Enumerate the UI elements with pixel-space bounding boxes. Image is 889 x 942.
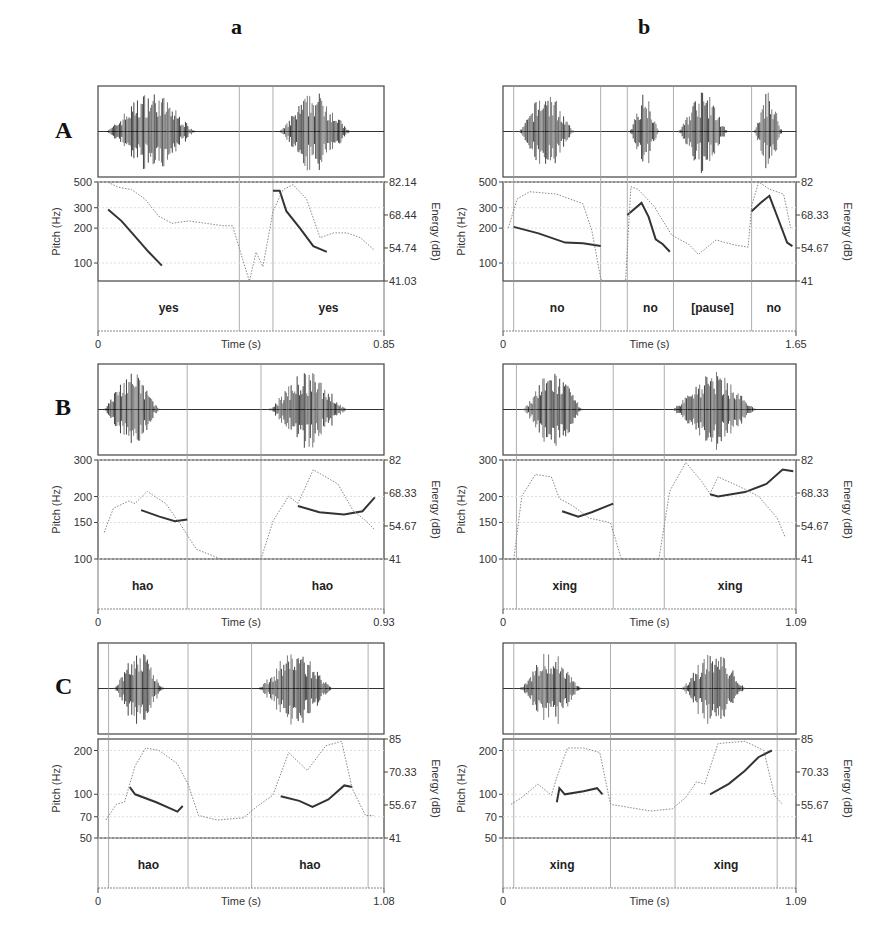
pitch-tick-label: 200 [74,491,92,503]
pitch-frame [98,182,384,281]
word-label: xing [552,579,577,593]
energy-tick-label: 85 [801,733,813,745]
pitch-contour [298,497,375,514]
energy-tick-label: 54.67 [801,520,829,532]
pitch-axis-title: Pitch (Hz) [455,764,467,812]
pitch-axis-title: Pitch (Hz) [50,207,62,255]
energy-tick-label: 68.44 [389,209,417,221]
energy-tick-label: 82 [389,454,401,466]
energy-tick-label: 41 [801,553,813,565]
energy-contour [106,741,374,820]
pitch-tick-label: 100 [74,553,92,565]
word-label: hao [312,579,333,593]
pitch-frame [98,460,384,559]
energy-tick-label: 41 [389,553,401,565]
time-tick-end: 0.85 [373,338,394,350]
energy-tick-label: 54.67 [801,242,829,254]
pitch-tick-label: 100 [74,257,92,269]
time-tick-start: 0 [95,895,101,907]
word-label: no [550,301,565,315]
panel-A-a: 50030020010082.1468.4454.7441.03Pitch (H… [50,86,442,350]
pitch-tick-label: 300 [479,454,497,466]
pitch-contour [281,785,353,806]
panel-A-b: 5003002001008268.3354.6741Pitch (Hz)Ener… [455,86,854,350]
time-axis-title: Time (s) [221,895,261,907]
pitch-contour [710,751,772,795]
energy-tick-label: 68.33 [389,487,417,499]
pitch-tick-label: 300 [74,454,92,466]
pitch-contour [627,203,670,252]
energy-contour [514,462,785,559]
panel-B-a: 3002001501008268.3354.6741Pitch (Hz)Ener… [50,364,442,628]
time-tick-end: 1.09 [785,616,806,628]
waveform [102,373,371,448]
word-label: hao [132,579,153,593]
energy-tick-label: 82 [801,454,813,466]
pitch-tick-label: 200 [74,745,92,757]
energy-tick-label: 54.67 [389,520,417,532]
time-tick-end: 1.08 [373,895,394,907]
energy-axis-title: Energy (dB) [430,759,442,818]
time-tick-start: 0 [500,895,506,907]
pitch-contour [562,504,613,517]
energy-tick-label: 85 [389,733,401,745]
pitch-contour [752,196,793,246]
pitch-tick-label: 100 [479,257,497,269]
word-label: yes [318,301,338,315]
word-label: yes [159,301,179,315]
time-tick-end: 0.93 [373,616,394,628]
waveform [521,372,782,450]
pitch-tick-label: 100 [479,553,497,565]
pitch-contour [141,510,187,521]
time-axis-title: Time (s) [630,895,670,907]
energy-tick-label: 68.33 [801,487,829,499]
energy-axis-title: Energy (dB) [842,759,854,818]
energy-tick-label: 68.33 [801,209,829,221]
pitch-frame [503,182,796,281]
time-axis-title: Time (s) [630,338,670,350]
word-label: hao [299,858,320,872]
time-tick-end: 1.65 [785,338,806,350]
pitch-contour [108,209,162,265]
pitch-tick-label: 50 [80,832,92,844]
energy-tick-label: 54.74 [389,242,417,254]
time-tick-start: 0 [500,616,506,628]
figure-canvas: 50030020010082.1468.4454.7441.03Pitch (H… [0,0,889,942]
pitch-tick-label: 50 [485,832,497,844]
pitch-tick-label: 150 [74,516,92,528]
pitch-axis-title: Pitch (Hz) [50,485,62,533]
waveform [518,93,791,173]
energy-contour [511,741,782,811]
energy-tick-label: 70.33 [801,766,829,778]
pitch-tick-label: 150 [479,516,497,528]
word-label: hao [138,858,159,872]
energy-axis-title: Energy (dB) [842,480,854,539]
word-label: no [643,301,658,315]
pitch-tick-label: 300 [74,202,92,214]
pitch-tick-label: 70 [485,811,497,823]
pitch-axis-title: Pitch (Hz) [455,485,467,533]
pitch-contour [273,191,327,252]
energy-axis-title: Energy (dB) [430,480,442,539]
pitch-tick-label: 200 [74,222,92,234]
waveform [113,654,356,724]
pitch-tick-label: 200 [479,222,497,234]
word-label: [pause] [691,301,734,315]
energy-tick-label: 41.03 [389,275,417,287]
pitch-frame [503,739,796,838]
pitch-tick-label: 100 [479,788,497,800]
word-label: no [766,301,781,315]
time-tick-start: 0 [500,338,506,350]
energy-axis-title: Energy (dB) [430,202,442,261]
pitch-tick-label: 70 [80,811,92,823]
time-axis-title: Time (s) [630,616,670,628]
pitch-tick-label: 200 [479,745,497,757]
energy-axis-title: Energy (dB) [842,202,854,261]
pitch-tick-label: 100 [74,788,92,800]
energy-tick-label: 82.14 [389,176,417,188]
pitch-contour [557,788,603,802]
energy-tick-label: 82 [801,176,813,188]
panel-C-a: 20010070508570.3355.6741Pitch (Hz)Energy… [50,643,442,907]
pitch-contour [130,787,183,812]
time-tick-end: 1.09 [785,895,806,907]
